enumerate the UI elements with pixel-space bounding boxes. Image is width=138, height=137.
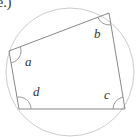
part-label: e.) [0, 0, 11, 10]
angle-arc-c [113, 97, 123, 109]
circumscribed-circle [6, 8, 134, 136]
cyclic-quadrilateral-diagram: e.) a b c d [0, 0, 138, 137]
angle-label-c: c [104, 88, 110, 101]
angle-label-a: a [25, 55, 32, 68]
angle-label-d: d [33, 85, 40, 98]
angle-label-b: b [94, 27, 101, 40]
diagram-graphics [0, 0, 138, 137]
